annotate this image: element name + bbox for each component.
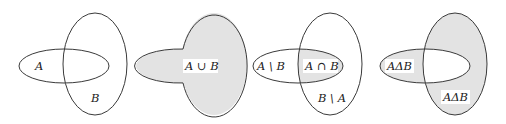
panel-intersection: A \ B A ∩ B B \ A — [253, 13, 362, 115]
panel-union: A ∪ B — [135, 13, 248, 117]
label-set-b: B — [90, 91, 99, 105]
label-symdiff-left: AΔB — [386, 59, 412, 73]
label-symdiff-right: AΔB — [442, 90, 468, 104]
panel-sets: A B — [19, 13, 127, 115]
panel-symmetric-difference: AΔB AΔB — [370, 0, 506, 124]
label-set-a: A — [34, 59, 43, 73]
label-intersection: A ∩ B — [304, 59, 339, 73]
venn-diagram-figure: A B A ∪ B A \ B A ∩ B B \ A AΔB AΔB — [0, 0, 506, 124]
label-a-minus-b: A \ B — [256, 59, 285, 73]
label-union: A ∪ B — [184, 59, 219, 73]
label-b-minus-a: B \ A — [317, 91, 346, 105]
